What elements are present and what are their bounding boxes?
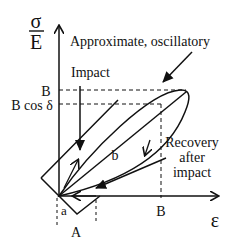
oscillatory-label: Approximate, oscillatory <box>70 34 210 49</box>
x-tick-b: B <box>156 204 165 219</box>
rect-label-big-a: A <box>71 225 82 240</box>
y-axis-label-e: E <box>30 31 42 53</box>
recovery-label-1: Recovery <box>165 135 219 150</box>
y-axis-label-sigma: σ <box>31 10 42 32</box>
stress-strain-diagram: σ E ε B B cos δ B Approximate, oscillato… <box>0 0 231 248</box>
oscillatory-pointer-arrow <box>163 52 192 82</box>
rect-label-a: a <box>61 203 67 218</box>
y-tick-b: B <box>41 84 50 99</box>
y-tick-bcosd: B cos δ <box>11 98 53 113</box>
unloading-arrow <box>145 140 150 155</box>
impact-label: Impact <box>71 65 110 80</box>
x-axis-label-epsilon: ε <box>211 209 219 231</box>
loop-label-b: b <box>112 148 119 163</box>
recovery-label-2: after <box>179 150 205 165</box>
recovery-line <box>96 158 166 188</box>
recovery-label-3: impact <box>173 165 211 180</box>
